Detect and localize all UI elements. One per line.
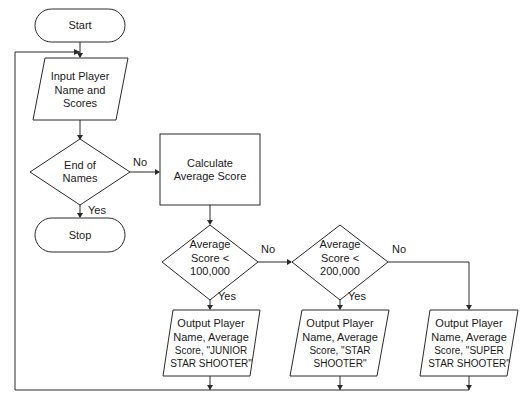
node-label: Name, Average [431, 331, 507, 343]
node-label: Name, Average [173, 331, 249, 343]
node-label: Stop [69, 229, 92, 241]
node-end-decision: End of Names [30, 139, 130, 205]
edge-label-no: No [392, 243, 406, 255]
flowchart-canvas: Start Input Player Name and Scores End o… [0, 0, 532, 405]
arrow-head [155, 169, 160, 175]
node-decision-200000: Average Score < 200,000 [292, 225, 388, 300]
node-label: 200,000 [320, 265, 360, 277]
node-label: Start [68, 19, 91, 31]
node-label: Average [190, 238, 231, 250]
node-label: Output Player [435, 317, 503, 329]
arrow-head [77, 213, 83, 218]
node-label: STAR SHOOTER" [428, 358, 510, 369]
node-label: 100,000 [190, 265, 230, 277]
arrow-head [466, 385, 472, 390]
arrow-head [77, 53, 83, 58]
node-label: Score, "SUPER [434, 345, 504, 356]
node-label: Scores [63, 97, 98, 109]
node-output-super: Output Player Name, Average Score, "SUPE… [420, 310, 518, 376]
arrow-head [207, 220, 213, 225]
node-label: Input Player [51, 70, 110, 82]
node-output-junior: Output Player Name, Average Score, "JUNI… [163, 310, 260, 376]
connector-d2-no [388, 262, 469, 309]
arrow-head [337, 305, 343, 310]
node-input: Input Player Name and Scores [33, 58, 128, 120]
node-label: Name and [55, 84, 106, 96]
node-label: Output Player [306, 317, 374, 329]
edge-label-no: No [261, 243, 275, 255]
edge-label-yes: Yes [88, 204, 106, 216]
node-label: Output Player [177, 317, 245, 329]
node-label: Names [63, 172, 98, 184]
edge-label-no: No [133, 156, 147, 168]
node-label: Average Score [174, 170, 247, 182]
edge-label-yes: Yes [218, 290, 236, 302]
node-label: Name, Average [302, 331, 378, 343]
arrow-head [207, 305, 213, 310]
arrow-head [337, 385, 343, 390]
node-label: End of [64, 159, 97, 171]
node-label: Average [320, 238, 361, 250]
arrow-head [466, 305, 472, 310]
node-label: Score < [321, 252, 359, 264]
node-start: Start [35, 9, 125, 42]
node-decision-100000: Average Score < 100,000 [162, 225, 258, 300]
arrow-head [207, 385, 213, 390]
node-calculate: Calculate Average Score [160, 134, 260, 205]
node-label: Calculate [187, 157, 233, 169]
node-label: STAR SHOOTER" [170, 358, 252, 369]
node-label: Score < [191, 252, 229, 264]
node-label: Score, "STAR [309, 345, 370, 356]
node-stop: Stop [35, 218, 125, 252]
edge-label-yes: Yes [348, 290, 366, 302]
node-label: SHOOTER" [314, 358, 367, 369]
node-label: Score, "JUNIOR [175, 345, 247, 356]
node-output-star: Output Player Name, Average Score, "STAR… [290, 310, 389, 376]
